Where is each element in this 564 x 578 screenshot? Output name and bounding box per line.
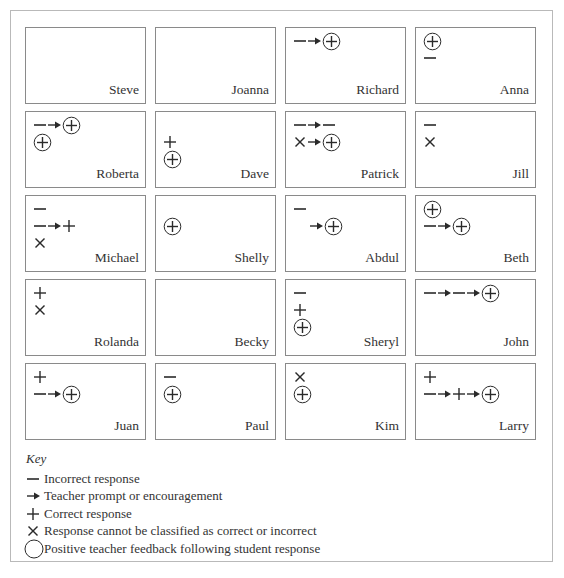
response-sequence [293,33,341,49]
arrow-right-icon [307,117,322,133]
student-cell-sheryl: Sheryl [285,279,406,356]
student-cell-larry: Larry [415,363,536,440]
response-sequence [163,386,182,402]
response-sequence [293,117,336,133]
x-icon [33,302,47,318]
student-cell-dave: Dave [155,111,276,188]
plus-icon [33,285,47,301]
key-legend: Key Incorrect response Teacher prompt or… [26,451,320,558]
student-name: Abdul [365,250,399,266]
plus-icon [26,506,44,522]
dash-icon [423,285,437,301]
dash-icon [33,218,47,234]
dash-icon [293,33,307,49]
key-item-correct: Correct response [26,505,320,523]
response-sequence [423,50,437,66]
circled-plus-icon [452,218,471,234]
key-item-incorrect: Incorrect response [26,470,320,488]
arrow-right-icon [47,117,62,133]
response-sequence [293,386,312,402]
student-cell-jill: Jill [415,111,536,188]
circled-plus-icon [293,386,312,402]
arrow-right-icon [309,218,324,234]
response-sequence [33,235,47,251]
dash-icon [423,386,437,402]
arrow-right-icon [466,386,481,402]
student-cell-joanna: Joanna [155,27,276,104]
student-cell-roberta: Roberta [25,111,146,188]
arrow-right-icon [307,33,322,49]
response-sequence [423,369,437,385]
x-icon [293,134,307,150]
key-title: Key [26,451,320,467]
dash-icon [293,285,307,301]
response-sequence [163,369,177,385]
student-name: Dave [241,166,269,182]
arrow-right-icon [437,285,452,301]
student-cell-paul: Paul [155,363,276,440]
key-label: Positive teacher feedback following stud… [44,541,320,557]
arrow-right-icon [307,134,322,150]
student-cell-rolanda: Rolanda [25,279,146,356]
student-cell-kim: Kim [285,363,406,440]
student-name: Anna [500,82,529,98]
key-label: Response cannot be classified as correct… [44,523,317,539]
dash-icon [293,117,307,133]
student-cell-becky: Becky [155,279,276,356]
circled-plus-icon [163,386,182,402]
response-sequence [33,386,81,402]
student-name: Sheryl [364,334,399,350]
dash-icon [293,201,307,217]
student-name: Richard [356,82,399,98]
response-sequence [33,218,76,234]
response-sequence [423,285,500,301]
key-label: Correct response [44,506,132,522]
circled-plus-icon [163,218,182,234]
response-sequence [33,201,47,217]
response-sequence [293,285,307,301]
arrow-right-icon [47,218,62,234]
plus-icon [33,369,47,385]
student-cell-shelly: Shelly [155,195,276,272]
response-sequence [33,369,47,385]
plus-icon [62,218,76,234]
response-sequence [33,302,47,318]
circled-plus-icon [481,285,500,301]
response-sequence [33,285,47,301]
response-sequence [293,319,312,335]
dash-icon [26,471,44,487]
circled-plus-icon [62,386,81,402]
arrow-right-icon [26,488,44,504]
circled-plus-icon [322,134,341,150]
student-name: Patrick [361,166,399,182]
x-icon [26,523,44,539]
x-icon [293,369,307,385]
student-cell-juan: Juan [25,363,146,440]
dash-icon [452,285,466,301]
dash-icon [423,50,437,66]
response-sequence [163,134,177,150]
student-name: Roberta [96,166,139,182]
student-name: Steve [109,82,139,98]
response-sequence [293,201,307,217]
response-sequence [163,218,182,234]
key-item-prompt: Teacher prompt or encouragement [26,488,320,506]
dash-icon [423,117,437,133]
key-item-feedback: Positive teacher feedback following stud… [26,540,320,558]
dash-icon [163,369,177,385]
dash-icon [33,201,47,217]
circled-plus-icon [423,201,442,217]
student-name: Juan [114,418,139,434]
arrow-right-icon [466,285,481,301]
student-cell-michael: Michael [25,195,146,272]
response-sequence [163,151,182,167]
arrow-right-icon [437,218,452,234]
student-name: Rolanda [94,334,139,350]
circled-plus-icon [322,33,341,49]
dash-icon [423,218,437,234]
dash-icon [322,117,336,133]
x-icon [423,134,437,150]
student-name: Becky [235,334,270,350]
dash-icon [33,386,47,402]
key-label: Teacher prompt or encouragement [44,488,222,504]
